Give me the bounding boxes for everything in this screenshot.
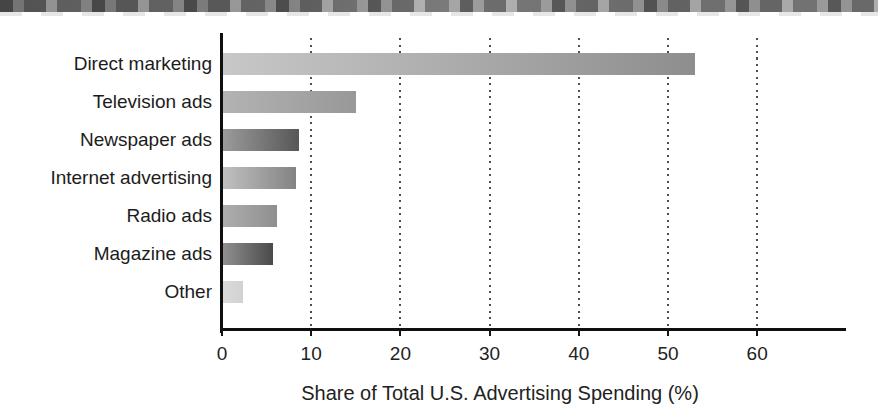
category-label-television-ads: Television ads bbox=[0, 90, 212, 114]
gridline-20 bbox=[399, 38, 401, 326]
x-tick-label-60: 60 bbox=[735, 343, 779, 365]
bar-television-ads bbox=[222, 91, 356, 113]
bar-direct-marketing bbox=[222, 53, 695, 75]
x-tick-20 bbox=[399, 328, 401, 336]
x-tick-60 bbox=[756, 328, 758, 336]
bar-radio-ads bbox=[222, 205, 277, 227]
bar-magazine-ads bbox=[222, 243, 273, 265]
gridline-40 bbox=[578, 38, 580, 326]
x-axis-title: Share of Total U.S. Advertising Spending… bbox=[150, 382, 850, 405]
x-tick-label-10: 10 bbox=[289, 343, 333, 365]
category-label-internet-advertising: Internet advertising bbox=[0, 166, 212, 190]
gridline-10 bbox=[310, 38, 312, 326]
x-axis-line bbox=[220, 328, 846, 331]
category-label-other: Other bbox=[0, 280, 212, 304]
x-tick-label-50: 50 bbox=[646, 343, 690, 365]
gridline-50 bbox=[667, 38, 669, 326]
scanned-bar-chart-figure: Share of Total U.S. Advertising Spending… bbox=[0, 0, 878, 416]
gridline-30 bbox=[489, 38, 491, 326]
x-tick-30 bbox=[489, 328, 491, 336]
x-tick-10 bbox=[310, 328, 312, 336]
x-tick-0 bbox=[221, 328, 223, 336]
bar-other bbox=[222, 281, 243, 303]
bar-internet-advertising bbox=[222, 167, 296, 189]
x-tick-label-0: 0 bbox=[200, 343, 244, 365]
y-axis-line bbox=[220, 33, 223, 333]
scan-artifact-band bbox=[0, 0, 878, 12]
category-label-direct-marketing: Direct marketing bbox=[0, 52, 212, 76]
x-tick-label-20: 20 bbox=[378, 343, 422, 365]
x-tick-50 bbox=[667, 328, 669, 336]
bar-newspaper-ads bbox=[222, 129, 299, 151]
category-label-radio-ads: Radio ads bbox=[0, 204, 212, 228]
x-tick-label-30: 30 bbox=[468, 343, 512, 365]
x-tick-label-40: 40 bbox=[557, 343, 601, 365]
category-label-magazine-ads: Magazine ads bbox=[0, 242, 212, 266]
category-label-newspaper-ads: Newspaper ads bbox=[0, 128, 212, 152]
x-tick-40 bbox=[578, 328, 580, 336]
gridline-60 bbox=[756, 38, 758, 326]
